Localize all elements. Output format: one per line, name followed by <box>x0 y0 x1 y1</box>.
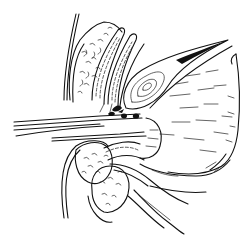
anatomical-illustration <box>0 0 252 239</box>
upper-left-lobed-mass <box>69 22 122 102</box>
horizontal-instruments <box>14 104 146 141</box>
illustration-drawing <box>0 0 252 239</box>
central-bulge <box>140 118 161 158</box>
upper-left-vessel-lines <box>64 14 79 100</box>
elongated-striped-structures <box>92 28 144 106</box>
dark-nodules <box>108 106 139 119</box>
lower-textured-masses <box>62 141 144 222</box>
